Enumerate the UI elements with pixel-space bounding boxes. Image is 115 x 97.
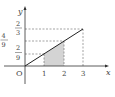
y-tick-2-3: 2 3 [15,20,22,37]
y-axis-arrow-icon [24,6,27,10]
x-tick-1: 1 [42,70,46,78]
shaded-area [44,41,64,66]
x-tick-3: 3 [81,70,85,78]
origin-label: O [16,69,23,78]
svg-text:4: 4 [2,32,6,40]
svg-text:2: 2 [16,20,20,28]
y-axis-label: y [17,7,23,16]
svg-text:9: 9 [2,41,6,49]
x-tick-2: 2 [62,70,66,78]
svg-text:9: 9 [16,54,20,62]
y-tick-4-9: 4 9 [1,32,9,49]
svg-text:2: 2 [16,44,20,52]
function-graph: y x O 1 2 3 2 3 4 9 2 9 [0,0,115,97]
y-tick-2-9: 2 9 [15,44,22,62]
x-axis-label: x [106,68,111,77]
svg-text:3: 3 [16,29,20,37]
